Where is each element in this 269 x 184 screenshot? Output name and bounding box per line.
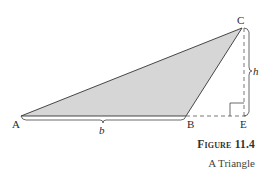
vertex-label-e: E xyxy=(240,119,247,130)
base-label-b: b xyxy=(99,125,105,136)
height-bracket xyxy=(244,28,252,116)
figure-number: Figure 11.4 xyxy=(197,138,255,150)
right-angle-marker xyxy=(230,103,244,116)
triangle-abc xyxy=(21,28,242,116)
vertex-label-c: C xyxy=(237,15,244,26)
height-label-h: h xyxy=(253,66,259,77)
vertex-label-a: A xyxy=(12,119,20,130)
base-bracket xyxy=(21,116,186,123)
vertex-label-b: B xyxy=(187,119,194,130)
figure-caption: A Triangle xyxy=(208,157,255,169)
